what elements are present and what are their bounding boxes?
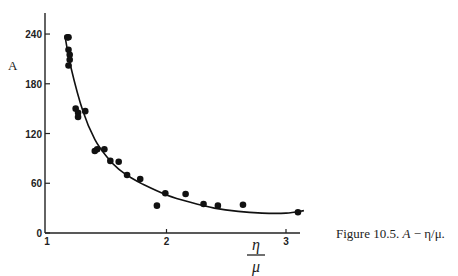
data-point xyxy=(65,62,72,69)
caption-prefix: Figure 10.5. xyxy=(336,226,402,241)
x-label-denominator: μ xyxy=(251,258,260,276)
data-point xyxy=(75,114,82,121)
fitted-curve xyxy=(65,36,304,214)
y-tick-label: 240 xyxy=(25,29,42,40)
x-tick-label: 2 xyxy=(164,236,170,247)
data-point xyxy=(295,209,302,216)
figure-caption: Figure 10.5. A − η/μ. xyxy=(336,226,445,242)
data-point xyxy=(66,56,73,63)
data-point xyxy=(115,158,122,165)
data-point xyxy=(65,34,72,41)
y-ticks: 060120180240 xyxy=(25,29,50,239)
data-point xyxy=(154,202,161,209)
axes xyxy=(45,13,300,233)
data-point xyxy=(162,190,169,197)
data-point xyxy=(215,202,222,209)
data-point xyxy=(182,191,189,198)
data-point xyxy=(200,201,207,208)
caption-suffix: − η/μ. xyxy=(410,226,444,241)
data-point xyxy=(101,146,108,153)
data-point xyxy=(240,202,247,209)
data-point xyxy=(137,176,144,183)
x-label-numerator: η xyxy=(252,236,260,254)
y-tick-label: 180 xyxy=(25,79,42,90)
data-point xyxy=(94,146,101,153)
data-point xyxy=(82,108,89,115)
data-points xyxy=(64,34,301,216)
data-point xyxy=(107,158,114,165)
y-tick-label: 120 xyxy=(25,129,42,140)
y-tick-label: 0 xyxy=(36,228,42,239)
x-tick-label: 1 xyxy=(44,236,50,247)
data-point xyxy=(124,172,131,179)
y-tick-label: 60 xyxy=(31,178,43,189)
x-axis-label: η μ xyxy=(247,236,265,276)
x-tick-label: 3 xyxy=(283,236,289,247)
y-axis-label: A xyxy=(8,58,18,73)
